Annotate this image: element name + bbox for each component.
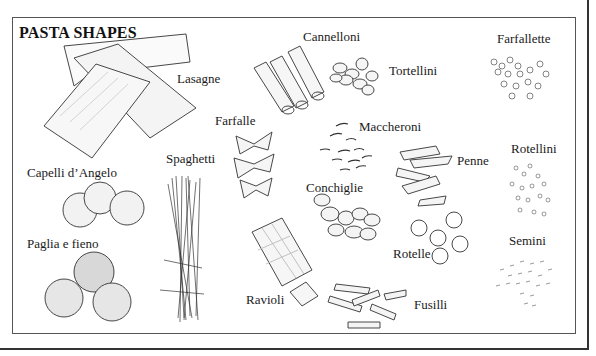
label-tortellini: Tortellini <box>389 64 437 77</box>
label-rotelle: Rotelle <box>393 247 431 260</box>
farfallette-illustration <box>491 57 549 99</box>
semini-illustration <box>496 261 552 306</box>
label-cannelloni: Cannelloni <box>303 30 360 43</box>
fusilli-illustration <box>328 284 406 328</box>
label-lasagne: Lasagne <box>177 72 220 85</box>
spaghetti-illustration <box>160 176 204 322</box>
label-paglia-e-fieno: Paglia e fieno <box>27 237 98 250</box>
label-spaghetti: Spaghetti <box>166 152 215 165</box>
rotellini-illustration <box>510 164 550 216</box>
tortellini-illustration <box>330 58 378 95</box>
paglia-illustration <box>45 252 131 321</box>
label-farfallette: Farfallette <box>497 32 550 45</box>
conchiglie-illustration <box>314 194 380 240</box>
label-maccheroni: Maccheroni <box>359 120 421 133</box>
label-farfalle: Farfalle <box>215 114 255 127</box>
label-capelli-dangelo: Capelli d’Angelo <box>27 166 117 179</box>
page-title: PASTA SHAPES <box>19 24 137 42</box>
label-semini: Semini <box>509 234 546 247</box>
capelli-illustration <box>63 182 144 227</box>
lasagne-illustration <box>44 34 196 158</box>
farfalle-illustration <box>234 132 274 198</box>
label-conchiglie: Conchiglie <box>306 181 363 194</box>
cannelloni-illustration <box>254 46 324 114</box>
label-ravioli: Ravioli <box>246 293 284 306</box>
label-fusilli: Fusilli <box>414 298 447 311</box>
label-rotellini: Rotellini <box>511 142 557 155</box>
penne-illustration <box>396 146 452 206</box>
label-penne: Penne <box>457 154 489 167</box>
